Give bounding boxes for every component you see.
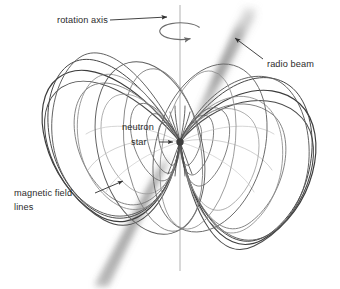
neutron-star-label-line1: neutron bbox=[122, 122, 154, 132]
neutron-star-label-line2: star bbox=[131, 137, 147, 147]
pulsar-diagram: rotation axis radio beam neutron star ma… bbox=[0, 0, 340, 289]
radio-beam-label: radio beam bbox=[267, 59, 314, 69]
magnetic-field-label-line1: magnetic field bbox=[14, 188, 72, 198]
magnetic-field-label-line2: lines bbox=[14, 202, 34, 212]
rotation-axis-leader bbox=[110, 17, 167, 20]
radio-beam-group bbox=[94, 6, 258, 287]
rotation-axis-group bbox=[160, 5, 200, 271]
rotation-axis-label: rotation axis bbox=[57, 15, 108, 25]
neutron-star-dot bbox=[176, 138, 183, 145]
magnetic-field-lines-right bbox=[180, 76, 316, 249]
radio-beam-leader bbox=[235, 38, 263, 59]
pulsar-illustration: rotation axis radio beam neutron star ma… bbox=[0, 0, 340, 289]
magnetic-field-lines-left bbox=[42, 53, 180, 225]
